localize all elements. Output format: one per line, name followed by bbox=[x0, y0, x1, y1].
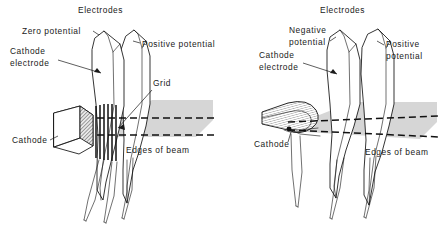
left-label-grid: Grid bbox=[153, 78, 171, 88]
right-label-cathode: Cathode bbox=[254, 139, 290, 149]
figure-root: Electrodes Zero potential Cathode electr… bbox=[0, 0, 443, 230]
right-label-positive-potential-line2: potential bbox=[386, 51, 423, 61]
right-label-cathode-electrode-line2: electrode bbox=[259, 62, 298, 72]
right-title-electrodes: Electrodes bbox=[320, 5, 365, 15]
left-label-cathode-electrode-line2: electrode bbox=[10, 58, 49, 68]
left-label-zero-potential: Zero potential bbox=[22, 26, 81, 36]
right-label-negative-potential-line2: potential bbox=[289, 37, 326, 47]
left-label-cathode: Cathode bbox=[12, 135, 48, 145]
right-label-positive-potential-line1: Positive bbox=[386, 39, 420, 49]
left-cathode-block bbox=[54, 106, 93, 154]
left-label-edges-of-beam: Edges of beam bbox=[126, 145, 190, 155]
left-label-cathode-electrode-line1: Cathode bbox=[10, 46, 46, 56]
left-title-electrodes: Electrodes bbox=[78, 5, 123, 15]
left-label-positive-potential: Positive potential bbox=[142, 39, 215, 49]
right-label-cathode-electrode-line1: Cathode bbox=[259, 50, 295, 60]
electron-gun-diagram-canvas: Electrodes Zero potential Cathode electr… bbox=[0, 0, 443, 230]
right-label-negative-potential-line1: Negative bbox=[289, 25, 326, 35]
right-label-edges-of-beam: Edges of beam bbox=[365, 147, 429, 157]
